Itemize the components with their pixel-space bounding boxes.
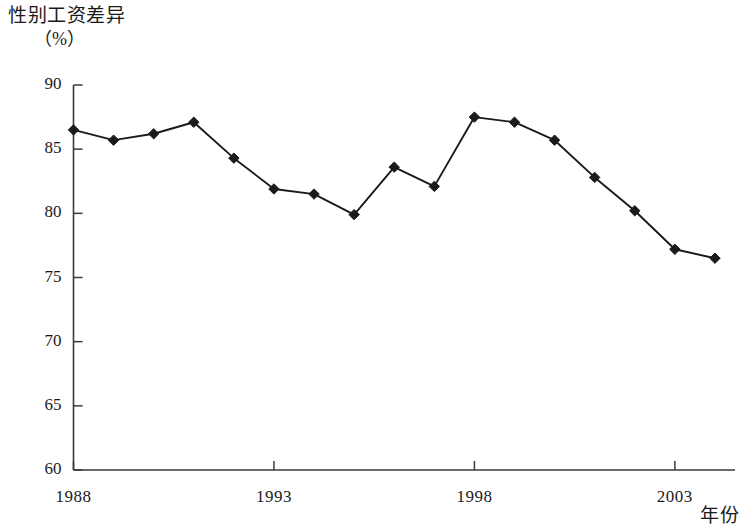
y-axis-tick-label: 80: [22, 202, 62, 222]
line-chart-plot: [0, 0, 749, 531]
data-point-markers: [68, 112, 720, 264]
x-axis-title: 年份: [700, 500, 739, 527]
x-axis-tick-label: 1988: [39, 487, 109, 507]
data-point-marker: [108, 135, 118, 145]
y-axis-tick-label: 65: [22, 395, 62, 415]
data-point-marker: [309, 189, 319, 199]
y-axis-tick-label: 70: [22, 331, 62, 351]
chart-axes: [74, 85, 736, 470]
y-axis-tick-label: 85: [22, 138, 62, 158]
y-axis-tick-label: 60: [22, 459, 62, 479]
x-axis-tick-label: 1993: [239, 487, 309, 507]
data-point-marker: [429, 181, 439, 191]
data-point-marker: [469, 112, 479, 122]
data-series-line: [74, 117, 715, 258]
y-axis-tick-label: 90: [22, 74, 62, 94]
data-point-marker: [68, 125, 78, 135]
x-axis-tick-label: 1998: [439, 487, 509, 507]
y-axis-tick-label: 75: [22, 267, 62, 287]
data-point-marker: [710, 253, 720, 263]
series-line: [74, 117, 715, 258]
chart-figure: 性别工资差异 （%） 60657075808590 19881993199820…: [0, 0, 749, 531]
data-point-marker: [509, 117, 519, 127]
data-point-marker: [148, 129, 158, 139]
